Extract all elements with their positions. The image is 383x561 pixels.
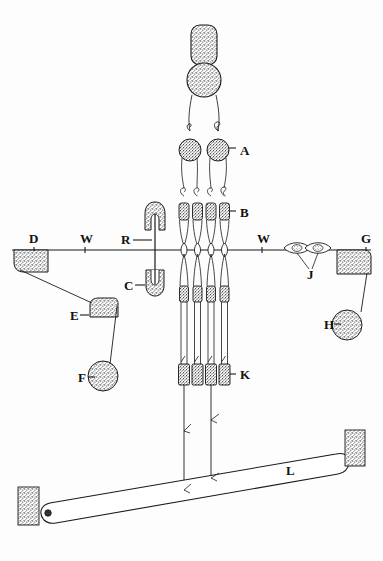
squiggle-b-2 (194, 188, 199, 196)
squiggle-b-3 (207, 188, 212, 196)
collar-k-2 (192, 364, 203, 385)
collar-k-1 (179, 364, 190, 385)
label-l: L (286, 463, 295, 478)
label-w-left: W (80, 231, 93, 246)
pad-right (345, 430, 365, 466)
strand-run-4 (222, 302, 228, 364)
top-capsule (191, 25, 217, 65)
lower-spindle-1 (180, 254, 188, 286)
collar-mid-4 (220, 286, 229, 302)
label-e: E (70, 308, 79, 323)
spindle-4 (220, 220, 229, 246)
label-d: D (29, 231, 38, 246)
tick-k-1 (181, 356, 185, 362)
long-strand-right (211, 385, 219, 478)
label-r: R (121, 232, 131, 247)
collar-b-4 (220, 203, 230, 220)
strand-run-1 (181, 302, 187, 364)
link-g-h (361, 273, 367, 312)
block-d (14, 250, 48, 272)
lower-spindle-4 (221, 254, 229, 286)
diagram-svg: A B C D E F G H J K L R W W (0, 0, 383, 561)
strand-run-2 (195, 302, 201, 364)
lower-spindle-2 (194, 254, 202, 286)
label-w-right: W (257, 231, 270, 246)
label-h: H (324, 317, 334, 332)
tick-k-3 (208, 356, 212, 362)
disc-f (88, 361, 118, 391)
spindle-3 (207, 220, 216, 246)
label-j: J (307, 267, 314, 282)
collar-mid-1 (180, 286, 189, 302)
spindle-2 (193, 220, 202, 246)
link-d-e (20, 270, 92, 303)
collar-k-3 (206, 364, 217, 385)
collar-mid-3 (207, 286, 216, 302)
j-lens-right (305, 243, 331, 254)
squiggle-b-4 (221, 187, 226, 196)
block-e (90, 298, 118, 317)
figure-canvas: A B C D E F G H J K L R W W (0, 0, 383, 561)
bar-l (41, 453, 349, 523)
collar-k-4 (219, 364, 230, 385)
collar-b-2 (193, 203, 203, 220)
collar-b-1 (179, 203, 189, 220)
disc-h (332, 310, 362, 340)
label-k: K (240, 367, 251, 382)
collar-mid-2 (193, 286, 202, 302)
spindle-1 (180, 220, 189, 246)
collar-b-3 (206, 203, 216, 220)
label-g: G (361, 231, 371, 246)
label-b: B (240, 205, 249, 220)
tick-k-2 (195, 356, 199, 362)
node-a-left (179, 139, 201, 161)
block-g (337, 250, 371, 274)
label-c: C (124, 278, 133, 293)
tick-k-4 (222, 356, 226, 362)
strand-run-3 (208, 302, 214, 364)
squiggle-b-1 (180, 188, 185, 196)
node-a-right (207, 139, 229, 161)
long-strand-left (184, 385, 191, 490)
lower-spindle-3 (207, 254, 215, 286)
label-f: F (78, 370, 86, 385)
top-disc (187, 63, 221, 97)
mid-strands (182, 158, 227, 188)
pad-left (18, 487, 39, 525)
label-a: A (240, 143, 250, 158)
